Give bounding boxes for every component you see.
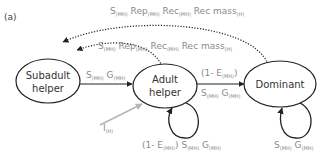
label-adult-to-subadult: S(MH) Rep(MH) Rec(MH) Rec mass(H) [98,41,232,53]
node-subadult-helper [16,59,80,103]
node-adult-line1: Adult [152,74,178,85]
node-subadult-line2: helper [32,83,65,94]
label-subadult-to-adult: S(MH) G(MH) [86,70,126,82]
label-adult-to-dominant-bottom: S(MH) G(MH) [201,88,241,100]
edge-dominant-self-loop [281,103,311,138]
node-adult-helper [133,64,197,108]
edge-immigration-to-adult [100,104,142,125]
label-dominant-self-loop: S(MH) G(MH) [274,140,314,152]
label-adult-self-loop: (1- E(MH)) S(MH) G(MH) [142,140,221,152]
label-dominant-to-subadult: S(MH) Rep(MH) Rec(MH) Rec mass(H) [110,6,244,18]
node-subadult-line1: Subadult [26,70,71,81]
life-cycle-diagram: (a) Subadult helper Adult helper Dominan… [0,0,328,156]
panel-label: (a) [4,12,17,22]
node-adult-line2: helper [149,87,182,98]
node-dominant-label: Dominant [255,79,304,90]
edge-adult-self-loop [169,103,198,138]
label-immigration: I(H) [103,123,113,134]
label-adult-to-dominant-top: (1- E(MH)) [201,68,238,79]
